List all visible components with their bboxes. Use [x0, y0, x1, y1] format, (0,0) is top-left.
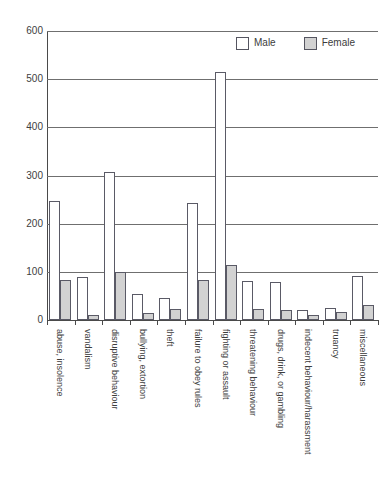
x-axis-label: drugs, drink, or gambling — [276, 329, 285, 428]
bar-female — [253, 309, 264, 320]
bar-male — [325, 308, 336, 320]
x-axis-label: miscellaneous — [358, 329, 367, 386]
bar-group — [270, 31, 292, 320]
x-tick-mark — [350, 320, 351, 325]
bar-group — [77, 31, 99, 320]
y-tick-label-300: 300 — [9, 171, 43, 181]
x-tick-mark — [295, 320, 296, 325]
bar-chart: 0100200300400500600 abuse, insolencevand… — [0, 0, 384, 494]
x-tick-mark — [323, 320, 324, 325]
bar-male — [77, 277, 88, 320]
bar-male — [159, 298, 170, 320]
bar-group — [325, 31, 347, 320]
y-axis-labels: 0100200300400500600 — [5, 0, 43, 494]
legend-item-male: Male — [236, 37, 276, 50]
y-tick-label-200: 200 — [9, 219, 43, 229]
bar-male — [242, 281, 253, 320]
x-tick-mark — [240, 320, 241, 325]
bar-female — [363, 305, 374, 320]
bar-group — [242, 31, 264, 320]
bar-group — [297, 31, 319, 320]
bar-group — [132, 31, 154, 320]
bar-male — [104, 172, 115, 320]
legend-label: Female — [322, 38, 355, 48]
x-tick-mark — [47, 320, 48, 325]
bar-male — [270, 282, 281, 320]
legend: MaleFemale — [236, 33, 355, 53]
bar-group — [104, 31, 126, 320]
bar-female — [336, 312, 347, 320]
y-tick-label-600: 600 — [9, 26, 43, 36]
x-tick-mark — [213, 320, 214, 325]
bar-female — [198, 280, 209, 320]
bar-male — [49, 201, 60, 320]
bar-group — [187, 31, 209, 320]
bar-male — [297, 310, 308, 320]
x-axis-label: truancy — [331, 329, 340, 359]
bar-male — [352, 276, 363, 320]
bar-female — [88, 315, 99, 320]
x-axis-label: theft — [165, 329, 174, 347]
x-axis-label: vandalism — [83, 329, 92, 370]
legend-swatch-male — [236, 37, 249, 50]
x-tick-mark — [185, 320, 186, 325]
bar-group — [215, 31, 237, 320]
bar-female — [170, 309, 181, 320]
x-tick-mark — [157, 320, 158, 325]
x-axis-label: fighting or assault — [221, 329, 230, 400]
bar-female — [308, 315, 319, 320]
x-axis-label: failure to obey rules — [193, 329, 202, 408]
bar-female — [60, 280, 71, 320]
x-tick-mark — [130, 320, 131, 325]
bar-female — [143, 313, 154, 320]
bar-male — [187, 203, 198, 320]
bar-female — [226, 265, 237, 320]
legend-label: Male — [254, 38, 276, 48]
bar-male — [215, 72, 226, 320]
y-tick-label-0: 0 — [9, 315, 43, 325]
x-tick-mark — [268, 320, 269, 325]
bar-group — [49, 31, 71, 320]
x-tick-mark — [75, 320, 76, 325]
bar-group — [352, 31, 374, 320]
x-axis-label: abuse, insolence — [55, 329, 64, 397]
bar-male — [132, 294, 143, 320]
bar-female — [115, 272, 126, 320]
plot-area — [47, 31, 378, 320]
bar-group — [159, 31, 181, 320]
x-axis-label: indecent behaviour/harassment — [303, 329, 312, 455]
x-axis-label: disruptive behaviour — [110, 329, 119, 410]
legend-swatch-female — [304, 37, 317, 50]
y-tick-label-100: 100 — [9, 267, 43, 277]
x-axis-label: bullying, extortion — [138, 329, 147, 399]
legend-item-female: Female — [304, 37, 355, 50]
x-axis-label: threatening behaviour — [248, 329, 257, 416]
y-tick-label-400: 400 — [9, 122, 43, 132]
x-tick-mark — [378, 320, 379, 325]
x-tick-mark — [102, 320, 103, 325]
y-tick-label-500: 500 — [9, 74, 43, 84]
bar-female — [281, 310, 292, 320]
